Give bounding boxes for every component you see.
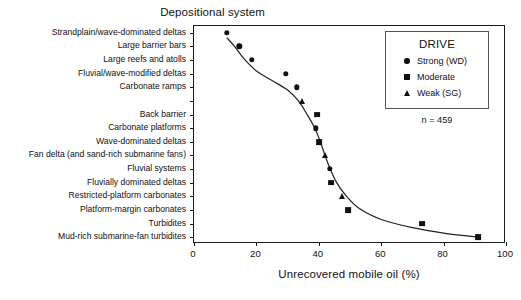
sample-size-annotation: n = 459 bbox=[385, 115, 489, 125]
y-axis-title: Depositional system bbox=[0, 6, 265, 18]
data-point-square bbox=[328, 180, 334, 186]
data-point-triangle bbox=[339, 193, 345, 199]
legend-title: DRIVE bbox=[386, 38, 488, 50]
x-axis-tick-label: 0 bbox=[173, 248, 213, 259]
category-label: Wave-dominated deltas bbox=[0, 136, 186, 145]
x-axis-tick-label: 20 bbox=[235, 248, 275, 259]
x-axis-tick bbox=[506, 242, 507, 246]
legend-marker-triangle-icon bbox=[400, 90, 414, 96]
data-point-square bbox=[419, 221, 425, 227]
category-axis-labels: Strandplain/wave-dominated deltasLarge b… bbox=[0, 25, 186, 243]
legend-entry: Moderate bbox=[386, 72, 488, 82]
legend-label: Moderate bbox=[417, 72, 455, 82]
legend-label: Strong (WD) bbox=[417, 56, 467, 66]
x-axis-tick-label: 40 bbox=[298, 248, 338, 259]
x-axis-tick-label: 100 bbox=[485, 248, 521, 259]
category-label: Turbidites bbox=[0, 218, 186, 227]
category-label: Carbonate platforms bbox=[0, 123, 186, 132]
data-point-triangle bbox=[322, 152, 328, 158]
legend-entry: Strong (WD) bbox=[386, 56, 488, 66]
x-axis-tick-label: 60 bbox=[360, 248, 400, 259]
category-label: Fluvially dominated deltas bbox=[0, 177, 186, 186]
category-label: Back barrier bbox=[0, 109, 186, 118]
legend-entries: Strong (WD)ModerateWeak (SG) bbox=[386, 56, 488, 98]
category-label: Large barrier bars bbox=[0, 41, 186, 50]
legend-label: Weak (SG) bbox=[417, 88, 461, 98]
data-point-square bbox=[316, 139, 322, 145]
category-label: Fan delta (and sand-rich submarine fans) bbox=[0, 150, 186, 159]
chart-figure: Depositional system Strandplain/wave-dom… bbox=[0, 0, 521, 300]
data-point-square bbox=[346, 207, 352, 213]
category-label: Large reefs and atolls bbox=[0, 55, 186, 64]
category-label: Carbonate ramps bbox=[0, 82, 186, 91]
category-label: Platform-margin carbonates bbox=[0, 204, 186, 213]
category-label: Fluvial/wave-modified deltas bbox=[0, 68, 186, 77]
data-point-square bbox=[314, 112, 320, 118]
x-axis-tick-label: 80 bbox=[423, 248, 463, 259]
legend-entry: Weak (SG) bbox=[386, 88, 488, 98]
category-label: Restricted-platform carbonates bbox=[0, 191, 186, 200]
legend-marker-square-icon bbox=[400, 74, 414, 80]
category-label: Mud-rich submarine-fan turbidites bbox=[0, 232, 186, 241]
category-label: Fluvial systems bbox=[0, 164, 186, 173]
legend: DRIVE Strong (WD)ModerateWeak (SG) bbox=[385, 31, 489, 109]
data-point-square bbox=[475, 234, 481, 240]
data-point-triangle bbox=[299, 98, 305, 104]
x-axis-title: Unrecovered mobile oil (%) bbox=[193, 268, 505, 280]
category-label: Strandplain/wave-dominated deltas bbox=[0, 27, 186, 36]
legend-marker-circle-icon bbox=[400, 58, 414, 63]
